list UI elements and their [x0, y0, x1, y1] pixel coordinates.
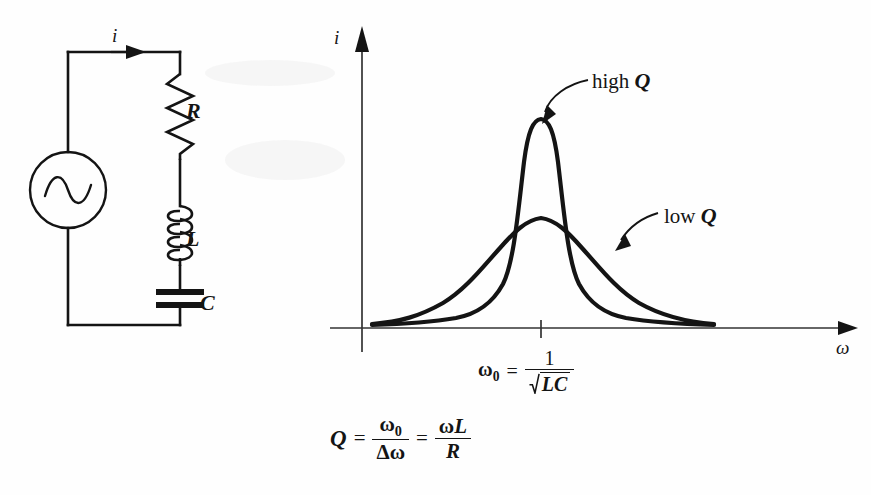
omega0-symbol: ω0 — [478, 359, 499, 384]
omega0-numerator: 1 — [525, 348, 575, 370]
omega0-denominator: LC — [525, 370, 575, 394]
ac-source-symbol — [30, 152, 106, 228]
inductor-label: L — [186, 228, 199, 250]
q-fraction-1: ω0 Δω — [372, 414, 409, 463]
q-factor-formula: Q = ω0 Δω = ωL R — [330, 414, 471, 463]
q-symbol: Q — [330, 427, 347, 450]
q-frac2-numerator: ωL — [435, 416, 471, 439]
high-q-symbol: Q — [635, 68, 651, 93]
y-axis-label: i — [334, 28, 339, 47]
high-q-leader-arrowhead — [542, 105, 556, 124]
high-q-annotation: high Q — [592, 70, 650, 92]
low-q-symbol: Q — [701, 203, 717, 228]
figure-canvas: i R L C i ω high Q low Q ω0 = 1 LC — [0, 0, 871, 495]
x-axis-label: ω — [836, 338, 849, 357]
omega0-radicand: LC — [540, 372, 571, 394]
y-axis-arrowhead — [355, 26, 369, 52]
x-axis-arrowhead — [838, 321, 858, 335]
high-q-prefix: high — [592, 69, 629, 93]
resistor-label: R — [186, 100, 201, 122]
q-frac2-denominator: R — [435, 439, 471, 462]
q-equals-1: = — [354, 428, 366, 449]
current-arrowhead — [126, 45, 146, 59]
low-q-prefix: low — [664, 204, 696, 228]
plot-axes — [330, 46, 845, 352]
q-equals-2: = — [416, 428, 428, 449]
low-q-annotation: low Q — [664, 205, 717, 227]
capacitor-symbol — [156, 292, 204, 305]
circuit-current-label: i — [112, 26, 117, 45]
q-fraction-2: ωL R — [435, 416, 471, 462]
high-q-leader-line — [545, 80, 588, 112]
q-frac1-denominator: Δω — [372, 440, 409, 463]
resonance-frequency-label: ω0 = 1 LC — [478, 348, 574, 394]
capacitor-label: C — [200, 292, 215, 314]
q-frac1-numerator: ω0 — [372, 414, 409, 440]
radical-sign-icon — [529, 372, 540, 394]
omega0-fraction: 1 LC — [525, 348, 575, 394]
low-q-leader-line — [621, 213, 658, 240]
low-q-curve — [372, 218, 714, 324]
high-q-curve — [372, 119, 714, 325]
omega0-equals: = — [506, 361, 517, 381]
